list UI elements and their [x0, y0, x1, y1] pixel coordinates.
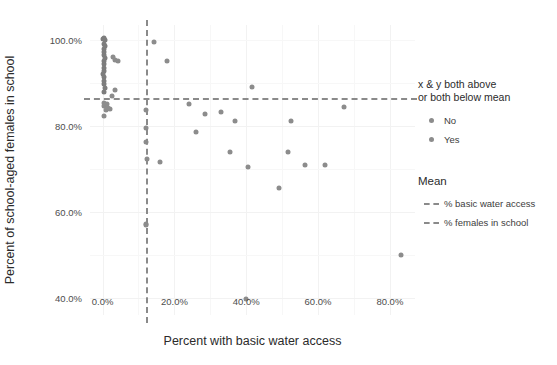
- legend-item-yes[interactable]: Yes: [418, 130, 553, 149]
- legend-label-no: No: [444, 115, 456, 126]
- gridline-vertical-minor: [354, 25, 355, 315]
- mean-line-horizontal: [84, 98, 417, 100]
- gridline-vertical: [390, 25, 391, 315]
- data-point: [107, 107, 112, 112]
- x-axis-label: Percent with basic water access: [90, 334, 415, 348]
- data-point: [323, 162, 328, 167]
- legend-item-no[interactable]: No: [418, 111, 553, 130]
- legend-dot-icon: [418, 118, 444, 123]
- legend-mean-title: Mean: [418, 175, 553, 187]
- data-point: [151, 40, 156, 45]
- data-point: [398, 252, 403, 257]
- legend-label-yes: Yes: [444, 134, 460, 145]
- y-tick-label: 40.0%: [55, 292, 82, 303]
- legend-label-mean-school: % females in school: [444, 217, 528, 228]
- data-point: [101, 89, 106, 94]
- dashed-line-icon: [418, 203, 444, 205]
- legend-label-mean-water: % basic water access: [444, 198, 535, 209]
- data-point: [202, 112, 207, 117]
- gridline-vertical-minor: [210, 25, 211, 315]
- gridline-horizontal-minor: [90, 255, 415, 256]
- gridline-horizontal: [90, 212, 415, 213]
- dashed-line-icon: [418, 222, 444, 224]
- legend-item-mean-water[interactable]: % basic water access: [418, 194, 553, 213]
- legend: x & y both above or both below mean No Y…: [418, 78, 553, 232]
- data-point: [165, 59, 170, 64]
- plot-area: [90, 25, 415, 315]
- y-tick-label: 100.0%: [50, 35, 82, 46]
- x-tick-label: 60.0%: [305, 296, 332, 307]
- legend-dot-icon: [418, 137, 444, 142]
- data-point: [193, 130, 198, 135]
- data-point: [219, 110, 224, 115]
- data-point: [158, 160, 163, 165]
- data-point: [249, 85, 254, 90]
- y-tick-label: 60.0%: [55, 206, 82, 217]
- x-tick-label: 0.0%: [92, 296, 114, 307]
- data-point: [303, 162, 308, 167]
- gridline-horizontal-minor: [90, 40, 415, 41]
- gridline-vertical: [318, 25, 319, 315]
- gridline-vertical-minor: [138, 25, 139, 315]
- gridline-horizontal: [90, 126, 415, 127]
- legend-item-mean-school[interactable]: % females in school: [418, 213, 553, 232]
- gridline-vertical-minor: [282, 25, 283, 315]
- data-point: [186, 102, 191, 107]
- y-tick-label: 80.0%: [55, 120, 82, 131]
- data-point: [116, 58, 121, 63]
- data-point: [102, 114, 107, 119]
- gridline-horizontal-minor: [90, 83, 415, 84]
- data-point: [341, 105, 346, 110]
- data-point: [276, 186, 281, 191]
- legend-group-title: x & y both above or both below mean: [418, 78, 553, 104]
- gridline-vertical: [246, 25, 247, 315]
- gridline-vertical: [174, 25, 175, 315]
- data-point: [285, 149, 290, 154]
- data-point: [246, 165, 251, 170]
- data-point: [112, 88, 117, 93]
- x-tick-label: 40.0%: [233, 296, 260, 307]
- chart-root: Percent of school-aged females in school…: [0, 0, 557, 365]
- data-point: [289, 119, 294, 124]
- y-axis-label: Percent of school-aged females in school: [3, 56, 17, 285]
- data-point: [233, 119, 238, 124]
- data-point: [228, 149, 233, 154]
- legend-group-title-line1: x & y both above: [418, 78, 553, 91]
- legend-group-title-line2: or both below mean: [418, 91, 553, 104]
- mean-line-vertical: [146, 20, 148, 323]
- x-tick-label: 80.0%: [376, 296, 403, 307]
- gridline-horizontal-minor: [90, 169, 415, 170]
- x-tick-label: 20.0%: [161, 296, 188, 307]
